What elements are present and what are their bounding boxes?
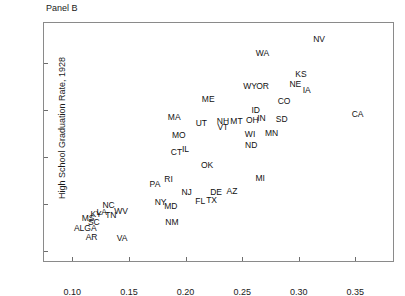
state-label-ne: NE: [289, 80, 301, 89]
plot-frame: High School Graduation Rate, 1928 0.10.2…: [43, 22, 394, 262]
scatter-points-layer: NVWAKSNEORWYIAMECOIDCAMASDINOHMTNHUTVTMN…: [44, 23, 393, 261]
state-label-pa: PA: [150, 180, 161, 189]
state-label-or: OR: [256, 81, 269, 90]
state-label-ar: AR: [86, 232, 98, 241]
state-label-wa: WA: [256, 48, 269, 57]
state-label-sd: SD: [276, 114, 288, 123]
state-label-fl: FL: [195, 197, 205, 206]
state-label-nd: ND: [245, 141, 257, 150]
state-label-va: VA: [117, 234, 128, 243]
state-label-co: CO: [278, 96, 291, 105]
state-label-wi: WI: [245, 129, 255, 138]
state-label-wy: WY: [243, 82, 257, 91]
state-label-mn: MN: [265, 128, 278, 137]
state-label-md: MD: [164, 202, 177, 211]
state-label-ok: OK: [201, 161, 213, 170]
state-label-al: AL: [74, 224, 84, 233]
state-label-nm: NM: [165, 217, 178, 226]
state-label-mi: MI: [256, 174, 265, 183]
state-label-tn: TN: [105, 211, 116, 220]
state-label-vt: VT: [217, 122, 228, 131]
state-label-ut: UT: [196, 119, 207, 128]
state-label-tx: TX: [206, 196, 217, 205]
state-label-mt: MT: [230, 117, 242, 126]
state-label-mo: MO: [172, 130, 186, 139]
state-label-ca: CA: [352, 110, 364, 119]
x-axis-title: [0, 288, 405, 296]
figure-container: Panel B High School Graduation Rate, 192…: [0, 0, 405, 296]
state-label-oh: OH: [246, 116, 259, 125]
state-label-nj: NJ: [181, 188, 191, 197]
state-label-ct: CT: [171, 148, 182, 157]
state-label-az: AZ: [227, 186, 238, 195]
state-label-nv: NV: [313, 34, 325, 43]
state-label-me: ME: [202, 95, 215, 104]
state-label-ia: IA: [303, 86, 311, 95]
state-label-ks: KS: [295, 70, 306, 79]
state-label-il: IL: [182, 145, 189, 154]
state-label-ri: RI: [164, 175, 173, 184]
state-label-ma: MA: [168, 113, 181, 122]
